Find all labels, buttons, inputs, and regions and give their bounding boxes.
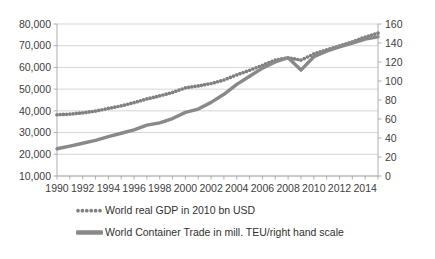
gdp-data-point [158, 94, 162, 98]
gdp-data-point [103, 107, 107, 111]
x-axis-tick-label: 1998 [148, 182, 172, 194]
gdp-data-point [71, 112, 75, 116]
gdp-data-point [151, 96, 155, 100]
gdp-data-point [90, 110, 94, 114]
gdp-data-point [126, 102, 130, 106]
gdp-data-point [132, 101, 136, 105]
left-axis-tick-label: 70,000 [19, 39, 51, 51]
right-axis-tick-label: 100 [385, 75, 403, 87]
gdp-data-point [222, 78, 226, 82]
gdp-data-point [299, 58, 303, 62]
gdp-data-point [177, 88, 181, 92]
gdp-data-point [100, 108, 104, 112]
legend-item-label: World real GDP in 2010 bn USD [105, 204, 256, 216]
gdp-data-point [251, 67, 255, 71]
left-axis-tick-label: 30,000 [19, 126, 51, 138]
gdp-data-point [155, 95, 159, 99]
gdp-data-point [190, 85, 194, 89]
x-axis-tick-label: 2006 [251, 182, 275, 194]
gdp-data-point [193, 85, 197, 89]
gdp-data-point [228, 76, 232, 80]
gdp-data-point [55, 113, 59, 117]
gdp-data-point [245, 70, 249, 74]
chart-legend: World real GDP in 2010 bn USDWorld Conta… [76, 204, 344, 238]
gdp-data-point [168, 91, 172, 95]
series-layer [55, 31, 380, 148]
gdp-data-point [87, 110, 91, 114]
legend-marker-dotted [98, 209, 102, 213]
gdp-data-point [164, 92, 168, 96]
gdp-data-point [84, 111, 88, 115]
gdp-data-point [238, 72, 242, 76]
gdp-data-point [81, 111, 85, 115]
left-axis-tick-label: 20,000 [19, 148, 51, 160]
gdp-data-point [148, 96, 152, 100]
x-axis-tick-label: 1992 [71, 182, 95, 194]
gdp-data-point [296, 58, 300, 62]
gdp-data-point [219, 79, 223, 83]
gdp-container-trade-line-chart: 10,00020,00030,00040,00050,00060,00070,0… [0, 0, 435, 259]
gdp-data-point [161, 93, 165, 97]
legend-marker-dotted [81, 209, 85, 213]
left-axis-tick-label: 80,000 [19, 18, 51, 30]
gdp-data-point [209, 82, 213, 86]
legend-item-label: World Container Trade in mill. TEU/right… [105, 226, 344, 238]
x-axis-tick-label: 2000 [174, 182, 198, 194]
gdp-data-point [139, 99, 143, 103]
x-axis-tick-label: 1990 [45, 182, 69, 194]
gdp-data-point [135, 100, 139, 104]
gdp-data-point [107, 107, 111, 111]
gdp-data-point [232, 74, 236, 78]
gdp-data-point [306, 55, 310, 59]
gdp-data-point [119, 104, 123, 108]
gdp-data-point [62, 113, 66, 117]
gdp-data-point [225, 77, 229, 81]
chart-container: 10,00020,00030,00040,00050,00060,00070,0… [0, 0, 435, 259]
x-axis-tick-label: 2010 [302, 182, 326, 194]
x-axis-tick-label: 2004 [225, 182, 249, 194]
gdp-data-point [58, 113, 62, 117]
right-axis-tick-labels: 020406080100120140160 [385, 18, 403, 182]
gdp-data-point [65, 112, 69, 116]
gdp-data-point [68, 112, 72, 116]
gdp-data-point [94, 109, 98, 113]
gdp-data-point [203, 83, 207, 87]
x-axis-tick-label: 1994 [97, 182, 121, 194]
gdp-data-point [187, 86, 191, 90]
x-axis-tick-label: 2014 [353, 182, 377, 194]
left-axis-tick-label: 10,000 [19, 170, 51, 182]
gdp-data-point [302, 57, 306, 61]
gdp-data-point [145, 97, 149, 101]
gdp-data-point [196, 84, 200, 88]
legend-marker-dotted [89, 209, 93, 213]
gdp-data-point [376, 31, 380, 35]
right-axis-tick-label: 120 [385, 56, 403, 68]
gdp-data-point [129, 102, 133, 106]
left-axis-tick-label: 50,000 [19, 83, 51, 95]
gdp-data-point [78, 111, 82, 115]
gdp-data-point [110, 106, 114, 110]
x-axis-tick-label: 2008 [276, 182, 300, 194]
gdp-data-point [235, 73, 239, 77]
gdp-data-point [180, 87, 184, 91]
gdp-data-point [373, 32, 377, 36]
gdp-data-point [116, 105, 120, 109]
x-axis-tick-label: 2002 [199, 182, 223, 194]
right-axis-tick-label: 140 [385, 37, 403, 49]
left-axis-tick-labels: 10,00020,00030,00040,00050,00060,00070,0… [19, 18, 51, 182]
left-axis-tick-label: 40,000 [19, 105, 51, 117]
gdp-data-point [212, 81, 216, 85]
left-axis-tick-label: 60,000 [19, 61, 51, 73]
x-axis-tick-labels: 1990199219941996199820002002200420062008… [45, 182, 377, 194]
gdp-data-point [241, 71, 245, 75]
legend-marker-dotted [94, 209, 98, 213]
gdp-data-point [200, 83, 204, 87]
gdp-data-point [171, 91, 175, 95]
right-axis-tick-label: 60 [385, 113, 397, 125]
x-axis-tick-label: 2012 [328, 182, 352, 194]
right-axis-tick-label: 80 [385, 94, 397, 106]
legend-marker-solid [76, 230, 103, 235]
x-axis-tick-label: 1996 [122, 182, 146, 194]
gdp-data-point [206, 82, 210, 86]
right-axis-tick-label: 160 [385, 18, 403, 30]
